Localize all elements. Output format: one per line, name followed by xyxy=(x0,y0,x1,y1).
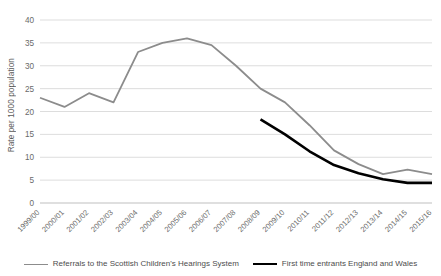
x-tick-label: 2012/13 xyxy=(334,208,360,234)
legend-line-swatch xyxy=(24,264,48,265)
x-tick-label: 2001/02 xyxy=(65,208,91,234)
x-tick-label: 2011/12 xyxy=(310,208,335,233)
series-line xyxy=(40,38,432,174)
data-series xyxy=(40,38,432,183)
x-tick-label: 2002/03 xyxy=(89,208,115,234)
x-tick-label: 1999/00 xyxy=(16,208,42,234)
y-tick-label: 5 xyxy=(29,176,34,185)
y-tick-label: 10 xyxy=(25,153,35,162)
x-tick-label: 2015/16 xyxy=(408,208,434,234)
y-tick-label: 0 xyxy=(29,199,34,208)
series-line xyxy=(261,119,433,183)
chart-legend: Referrals to the Scottish Children's Hea… xyxy=(0,260,441,268)
legend-item-label: First time entrants England and Wales xyxy=(282,260,417,268)
y-tick-label: 35 xyxy=(25,39,35,48)
legend-item[interactable]: Referrals to the Scottish Children's Hea… xyxy=(24,260,239,268)
x-tick-label: 2005/06 xyxy=(163,208,189,234)
x-tick-label: 2013/14 xyxy=(359,208,385,234)
y-tick-label: 25 xyxy=(25,85,35,94)
x-tick-label: 2004/05 xyxy=(138,208,164,234)
line-chart: Rate per 1000 population 051015202530354… xyxy=(0,0,441,276)
x-tick-label: 2008/09 xyxy=(236,208,262,234)
x-tick-label: 2009/10 xyxy=(261,208,287,234)
x-tick-label: 2014/15 xyxy=(383,208,409,234)
y-tick-label: 15 xyxy=(25,130,35,139)
y-axis-ticks: 0510152025303540 xyxy=(25,16,35,208)
y-tick-label: 20 xyxy=(25,108,35,117)
y-tick-label: 40 xyxy=(25,16,35,25)
x-tick-label: 2003/04 xyxy=(114,208,140,234)
legend-item[interactable]: First time entrants England and Wales xyxy=(253,260,417,268)
x-axis-ticks: 1999/002000/012001/022002/032003/042004/… xyxy=(16,208,434,234)
x-tick-label: 2006/07 xyxy=(187,208,213,234)
x-tick-label: 2000/01 xyxy=(40,208,66,234)
x-tick-label: 2007/08 xyxy=(212,208,238,234)
x-tick-label: 2010/11 xyxy=(286,208,311,233)
legend-item-label: Referrals to the Scottish Children's Hea… xyxy=(53,260,239,268)
legend-line-swatch xyxy=(253,263,277,265)
y-tick-label: 30 xyxy=(25,62,35,71)
chart-plot-area: 0510152025303540 1999/002000/012001/0220… xyxy=(0,0,441,276)
